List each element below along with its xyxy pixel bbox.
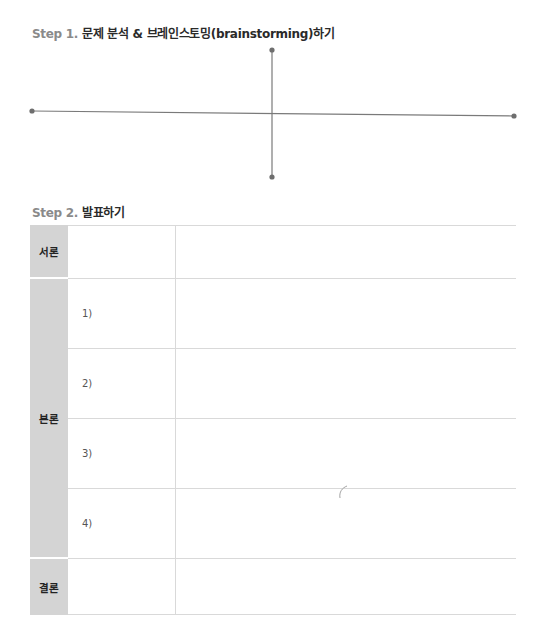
row-divider (68, 418, 516, 419)
column-divider (175, 225, 176, 615)
section-conclusion-label-cell: 결론 (30, 559, 68, 615)
step2-number: Step 2. (32, 206, 78, 220)
row-divider (68, 614, 516, 615)
body-row-3-label: 3) (82, 448, 92, 459)
body-row-4-label: 4) (82, 518, 92, 529)
body-row-2-label: 2) (82, 378, 92, 389)
step2-heading: Step 2. 발표하기 (32, 203, 125, 220)
step2-title: 발표하기 (82, 206, 125, 220)
section-body-label-cell: 본론 (30, 279, 68, 557)
brainstorm-cross-diagram (0, 0, 548, 200)
horizontal-axis (32, 111, 514, 116)
presentation-table: 서론 본론 결론 1) 2) 3) 4) (30, 225, 516, 615)
bottom-endpoint-dot (269, 174, 274, 179)
row-divider (68, 348, 516, 349)
body-row-1-label: 1) (82, 308, 92, 319)
section-intro-label: 서론 (39, 244, 59, 259)
right-endpoint-dot (511, 113, 516, 118)
row-divider (68, 488, 516, 489)
stray-pencil-mark (336, 484, 350, 500)
row-divider (68, 225, 516, 226)
left-endpoint-dot (29, 108, 34, 113)
row-divider (68, 558, 516, 559)
top-endpoint-dot (269, 47, 274, 52)
section-body-label: 본론 (39, 411, 59, 426)
section-intro-label-cell: 서론 (30, 225, 68, 277)
section-conclusion-label: 결론 (39, 580, 59, 595)
row-divider (68, 278, 516, 279)
